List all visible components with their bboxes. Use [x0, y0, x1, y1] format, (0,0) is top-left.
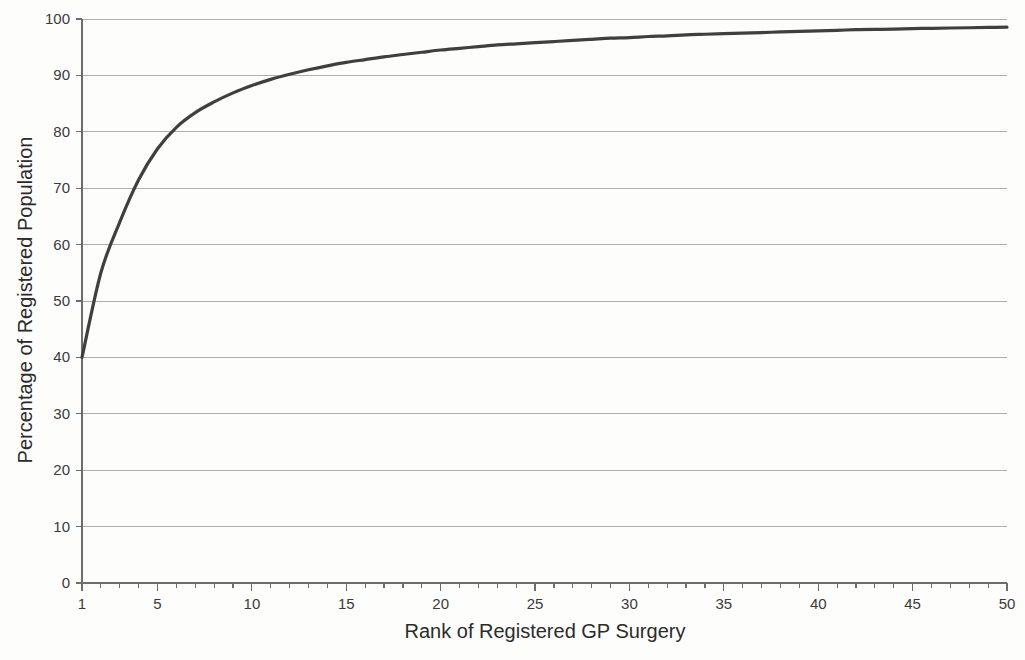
- y-tick-label: 90: [53, 66, 70, 83]
- x-axis-title: Rank of Registered GP Surgery: [405, 620, 686, 642]
- y-tick-label: 0: [62, 574, 70, 591]
- x-tick-label: 30: [621, 595, 638, 612]
- y-axis-title: Percentage of Registered Population: [14, 137, 36, 464]
- x-tick-label: 40: [810, 595, 827, 612]
- y-tick-label: 40: [53, 348, 70, 365]
- y-tick-label: 60: [53, 236, 70, 253]
- x-tick-label: 20: [432, 595, 449, 612]
- x-tick-label: 50: [999, 595, 1016, 612]
- y-tick-label: 10: [53, 518, 70, 535]
- y-tick-label: 20: [53, 461, 70, 478]
- x-tick-label: 35: [715, 595, 732, 612]
- x-tick-label: 25: [527, 595, 544, 612]
- chart-background: [0, 0, 1025, 660]
- x-tick-label: 15: [338, 595, 355, 612]
- y-tick-label: 50: [53, 292, 70, 309]
- x-tick-label: 5: [153, 595, 161, 612]
- y-tick-label: 100: [45, 10, 70, 27]
- x-tick-label: 1: [78, 595, 86, 612]
- chart-canvas: 0102030405060708090100 15101520253035404…: [0, 0, 1025, 660]
- y-tick-label: 70: [53, 179, 70, 196]
- x-tick-label: 45: [904, 595, 921, 612]
- y-tick-label: 80: [53, 123, 70, 140]
- chart-container: 0102030405060708090100 15101520253035404…: [0, 0, 1025, 660]
- y-tick-label: 30: [53, 405, 70, 422]
- x-tick-label: 10: [244, 595, 261, 612]
